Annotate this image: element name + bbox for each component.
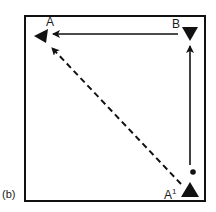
marker-a-triangle-icon	[34, 29, 48, 43]
panel-label: (b)	[2, 189, 15, 200]
label-a1-sup: 1	[172, 187, 176, 196]
label-a: A	[46, 16, 54, 28]
marker-b-triangle-icon	[182, 27, 198, 41]
label-a1: A1	[164, 188, 176, 201]
frame-box	[25, 16, 205, 201]
path-a1-to-a-dashed	[52, 48, 181, 184]
marker-a1-triangle-icon	[181, 182, 199, 197]
diagram-canvas	[0, 0, 216, 212]
label-b: B	[172, 18, 180, 30]
label-a1-base: A	[164, 188, 172, 202]
start-dot-icon	[190, 169, 196, 175]
